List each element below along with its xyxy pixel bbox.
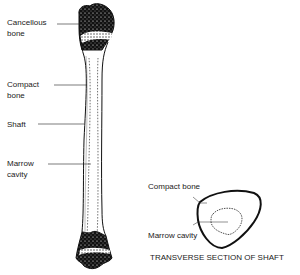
distal-epiphysis: [76, 231, 112, 268]
section-label-marrow-cavity: Marrow cavity: [148, 231, 197, 240]
bone-shaft: [80, 18, 108, 236]
label-compact-bone: Compact bone: [7, 79, 39, 101]
section-label-compact-bone: Compact bone: [148, 182, 200, 191]
leader-section-compact: [193, 197, 200, 203]
transverse-section: [193, 191, 261, 248]
label-marrow-cavity: Marrow cavity: [7, 158, 34, 180]
label-cancellous-bone: Cancellous bone: [7, 17, 47, 39]
proximal-epiphysis: [79, 4, 114, 50]
section-caption: TRANSVERSE SECTION OF SHAFT: [150, 253, 284, 262]
label-shaft: Shaft: [7, 119, 26, 130]
leader-section-marrow: [193, 222, 198, 225]
